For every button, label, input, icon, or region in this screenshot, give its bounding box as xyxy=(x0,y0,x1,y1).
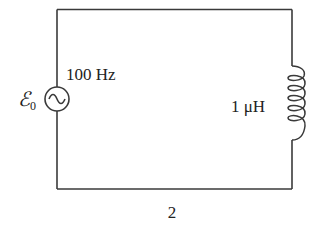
circuit-diagram: ℰ0 100 Hz 1 μH 2 xyxy=(0,0,331,228)
ac-source-icon xyxy=(45,87,69,111)
frequency-label: 100 Hz xyxy=(66,65,116,84)
inductor-coil-icon xyxy=(288,66,305,140)
inductance-label: 1 μH xyxy=(231,97,265,116)
emf-label: ℰ0 xyxy=(18,88,36,113)
caption-label: 2 xyxy=(168,203,177,222)
